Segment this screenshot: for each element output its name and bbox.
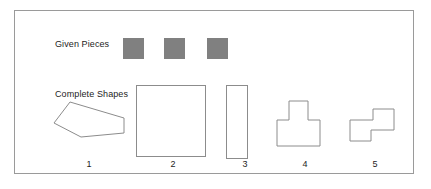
t-shape [276, 100, 321, 147]
square-piece-2 [164, 38, 185, 59]
shape-number-1: 1 [79, 159, 99, 169]
diagram-frame: Given Pieces Complete Shapes 1 2 3 4 5 [14, 10, 414, 174]
shape-number-4: 4 [295, 159, 315, 169]
tall-rectangle-shape [226, 85, 248, 159]
s-shape [349, 108, 395, 142]
shape-number-2: 2 [163, 159, 183, 169]
shape-number-5: 5 [365, 159, 385, 169]
large-square-shape [136, 85, 206, 157]
complete-shapes-label: Complete Shapes [55, 89, 128, 99]
square-piece-1 [123, 38, 144, 59]
given-pieces-label: Given Pieces [55, 39, 109, 49]
square-piece-3 [207, 38, 228, 59]
shape-number-3: 3 [235, 159, 255, 169]
arrow-wedge-shape [53, 101, 125, 143]
